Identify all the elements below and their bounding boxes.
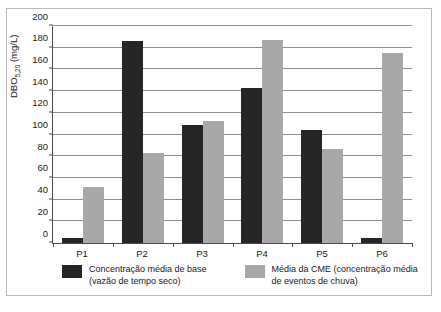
bar-base [182, 125, 203, 243]
bar-base [62, 238, 83, 243]
plot-area: 020406080100120140160180200 [52, 26, 412, 244]
x-axis-label: P3 [172, 248, 232, 259]
y-axis-tick-label: 100 [32, 120, 48, 130]
legend-swatch-base-icon [62, 265, 82, 278]
x-axis-tick-mark [113, 243, 114, 247]
x-axis-labels: P1P2P3P4P5P6 [52, 248, 412, 259]
legend-label-base-line1: Concentração média de base [89, 264, 207, 274]
bar-cme [143, 153, 164, 243]
bar-group [113, 26, 173, 243]
legend-label-cme-line2: de eventos de chuva) [272, 276, 358, 286]
bar-cme [203, 121, 224, 243]
y-axis-tick-label: 180 [32, 33, 48, 43]
x-axis-tick-mark [53, 243, 54, 247]
legend-swatch-cme-icon [245, 265, 265, 278]
chart-legend: Concentração média de base (vazão de tem… [62, 264, 418, 287]
bar-group [292, 26, 352, 243]
y-axis-title-unit: (mg/L) [8, 35, 19, 65]
y-axis-tick-label: 40 [37, 185, 48, 195]
y-axis-title: DBO5,20 (mg/L) [8, 35, 21, 98]
bar-cme [322, 149, 343, 243]
x-axis-tick-mark [352, 243, 353, 247]
x-axis-tick-mark [233, 243, 234, 247]
y-axis-tick-label: 120 [32, 99, 48, 109]
legend-label-cme-line1: Média da CME (concentração média [272, 264, 418, 274]
bar-base [301, 130, 322, 243]
bar-base [241, 88, 262, 243]
y-axis-tick-label: 80 [37, 142, 48, 152]
y-axis-tick-label: 140 [32, 77, 48, 87]
bar-group [53, 26, 113, 243]
bar-group [232, 26, 292, 243]
legend-entry-base: Concentração média de base (vazão de tem… [62, 264, 207, 287]
bar-group [352, 26, 412, 243]
x-axis-tick-mark [173, 243, 174, 247]
x-axis-label: P1 [52, 248, 112, 259]
y-axis-tick-label: 0 [43, 229, 48, 239]
legend-label-base-line2: (vazão de tempo seco) [89, 276, 181, 286]
bar-group [173, 26, 233, 243]
x-axis-label: P5 [292, 248, 352, 259]
x-axis-label: P6 [352, 248, 412, 259]
x-axis-label: P2 [112, 248, 172, 259]
bar-chart-figure: DBO5,20 (mg/L) 0204060801001201401601802… [0, 0, 441, 312]
x-axis-label: P4 [232, 248, 292, 259]
y-axis-tick-label: 200 [32, 12, 48, 22]
x-axis-tick-mark [292, 243, 293, 247]
legend-label-cme: Média da CME (concentração média de even… [272, 264, 418, 287]
bar-groups [53, 26, 412, 243]
legend-entry-cme: Média da CME (concentração média de even… [245, 264, 418, 287]
x-axis-tick-mark [412, 243, 413, 247]
legend-label-base: Concentração média de base (vazão de tem… [89, 264, 207, 287]
bar-cme [382, 53, 403, 243]
bar-base [122, 41, 143, 243]
y-axis-tick-label: 60 [37, 164, 48, 174]
y-axis-title-subscript: 5,20 [14, 65, 21, 78]
bar-base [361, 238, 382, 243]
y-axis-tick-label: 20 [37, 207, 48, 217]
y-axis-tick-label: 160 [32, 55, 48, 65]
bar-cme [83, 187, 104, 243]
y-axis-title-main: DBO [8, 77, 19, 98]
bar-cme [262, 40, 283, 243]
